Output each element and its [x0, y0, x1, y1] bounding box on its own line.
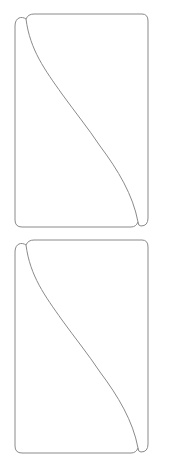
- card-outline-top: [15, 14, 148, 227]
- card-outline-bottom: [15, 240, 148, 453]
- diagram-canvas: [0, 0, 173, 458]
- diagram-svg: [0, 0, 173, 458]
